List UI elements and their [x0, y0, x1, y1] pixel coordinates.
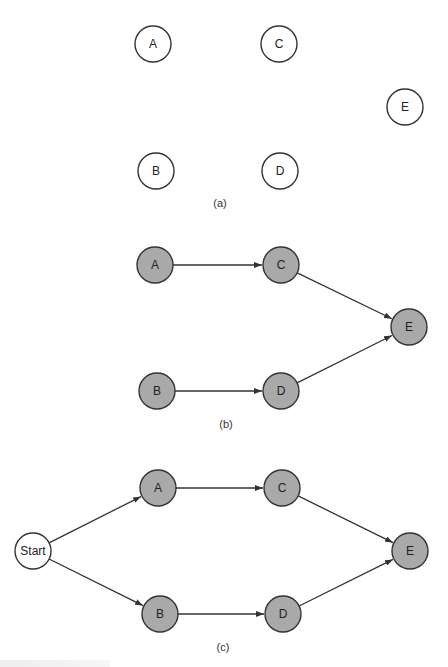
- node-b: B: [142, 596, 178, 632]
- panel-label-b: (b): [219, 418, 232, 430]
- edge-c-to-e: [298, 496, 393, 543]
- edge-start-to-b: [49, 559, 143, 606]
- node-e: E: [391, 309, 427, 345]
- figure-caption-partial: [0, 660, 110, 667]
- node-b: B: [138, 153, 174, 189]
- panel-b: ACEBD(b): [137, 247, 427, 430]
- node-label: C: [275, 37, 284, 51]
- node-label: A: [154, 481, 162, 495]
- node-d: D: [265, 596, 301, 632]
- node-c: C: [263, 247, 299, 283]
- node-start: Start: [15, 533, 51, 569]
- edge-c-to-e: [297, 273, 392, 319]
- panel-label-c: (c): [217, 641, 230, 653]
- node-label: D: [277, 384, 286, 398]
- node-label: A: [149, 37, 157, 51]
- panel-a: ACEBD(a): [135, 26, 423, 209]
- node-label: Start: [20, 544, 46, 558]
- node-d: D: [262, 153, 298, 189]
- node-c: C: [261, 26, 297, 62]
- panel-c: StartACEBD(c): [15, 470, 428, 653]
- node-a: A: [135, 26, 171, 62]
- edge-d-to-e: [299, 559, 393, 606]
- node-d: D: [263, 373, 299, 409]
- node-a: A: [137, 247, 173, 283]
- node-label: B: [152, 164, 160, 178]
- network-diagram: ACEBD(a) ACEBD(b) StartACEBD(c): [0, 0, 448, 667]
- node-label: A: [151, 258, 159, 272]
- edge-d-to-e: [297, 335, 392, 382]
- node-e: E: [387, 89, 423, 125]
- node-label: B: [153, 384, 161, 398]
- node-e: E: [392, 533, 428, 569]
- node-label: D: [276, 164, 285, 178]
- node-label: E: [406, 544, 414, 558]
- node-label: C: [277, 258, 286, 272]
- node-b: B: [139, 373, 175, 409]
- node-label: D: [279, 607, 288, 621]
- node-label: B: [156, 607, 164, 621]
- node-label: E: [401, 100, 409, 114]
- node-a: A: [140, 470, 176, 506]
- node-label: C: [278, 481, 287, 495]
- edge-start-to-a: [49, 497, 141, 543]
- panel-label-a: (a): [213, 197, 226, 209]
- node-label: E: [405, 320, 413, 334]
- node-c: C: [264, 470, 300, 506]
